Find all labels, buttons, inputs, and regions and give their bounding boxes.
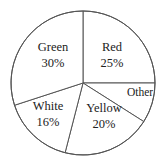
label-red-pct: 25% (101, 56, 124, 70)
pie-chart: Green 30% Red 25% Other White 16% Yellow… (0, 0, 164, 166)
label-yellow-pct: 20% (93, 117, 116, 131)
label-other-name: Other (127, 86, 153, 98)
label-white-pct: 16% (37, 115, 60, 129)
label-red-name: Red (102, 40, 123, 54)
label-white-name: White (33, 99, 64, 113)
pie-chart-svg: Green 30% Red 25% Other White 16% Yellow… (0, 0, 164, 166)
label-green-pct: 30% (42, 56, 65, 70)
pie-slices (11, 11, 155, 155)
label-yellow-name: Yellow (86, 101, 122, 115)
label-green-name: Green (38, 40, 69, 54)
